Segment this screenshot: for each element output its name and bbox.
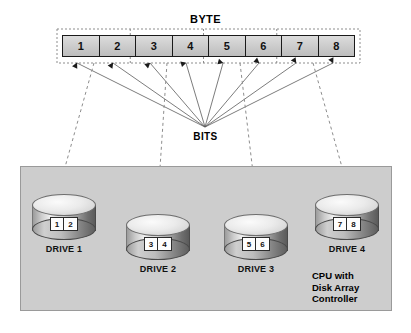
bit-fan-lines xyxy=(77,63,333,127)
byte-cell-4: 4 xyxy=(173,36,210,56)
cpu-caption-line-3: Controller xyxy=(312,293,390,305)
byte-cell-8: 8 xyxy=(319,36,355,56)
byte-cell-5: 5 xyxy=(209,36,246,56)
drive-4: 7 8 DRIVE 4 xyxy=(315,194,379,240)
byte-cell-1: 1 xyxy=(63,36,100,56)
drive-4-label: DRIVE 4 xyxy=(329,244,365,254)
drive-2-bit-b: 4 xyxy=(158,238,171,250)
drive-4-bit-a: 7 xyxy=(334,218,347,230)
drive-1-bit-b: 2 xyxy=(64,218,77,230)
cpu-caption-line-1: CPU with xyxy=(312,270,390,282)
drive-4-cylinder-icon: 7 8 xyxy=(315,194,379,240)
byte-cell-6: 6 xyxy=(246,36,283,56)
drive-1-label: DRIVE 1 xyxy=(46,244,82,254)
drive-2-bit-a: 3 xyxy=(145,238,158,250)
drive-1-bit-pair: 1 2 xyxy=(50,217,78,231)
byte-title: BYTE xyxy=(0,13,411,25)
cpu-controller-caption: CPU with Disk Array Controller xyxy=(312,270,390,305)
drive-3-label: DRIVE 3 xyxy=(238,264,274,274)
byte-cell-3: 3 xyxy=(136,36,173,56)
drive-3-bit-a: 5 xyxy=(243,238,256,250)
byte-cell-7: 7 xyxy=(282,36,319,56)
bits-label: BITS xyxy=(0,131,411,142)
drive-2: 3 4 DRIVE 2 xyxy=(126,214,190,260)
drive-2-cylinder-top xyxy=(126,214,190,236)
drive-1-cylinder-icon: 1 2 xyxy=(32,194,96,240)
drive-1-bit-a: 1 xyxy=(51,218,64,230)
byte-cell-2: 2 xyxy=(100,36,137,56)
drive-4-bit-b: 8 xyxy=(347,218,360,230)
drive-4-cylinder-top xyxy=(315,194,379,216)
drive-1-cylinder-top xyxy=(32,194,96,216)
raid-striping-diagram: BYTE 1 2 3 4 5 6 7 8 BITS 1 2 DRIVE 1 xyxy=(0,0,411,333)
drive-3-bit-pair: 5 6 xyxy=(242,237,270,251)
drive-3-cylinder-top xyxy=(224,214,288,236)
cpu-caption-line-2: Disk Array xyxy=(312,282,390,294)
drive-1: 1 2 DRIVE 1 xyxy=(32,194,96,240)
drive-2-label: DRIVE 2 xyxy=(140,264,176,274)
drive-3-cylinder-icon: 5 6 xyxy=(224,214,288,260)
drive-3: 5 6 DRIVE 3 xyxy=(224,214,288,260)
drive-2-cylinder-icon: 3 4 xyxy=(126,214,190,260)
drive-3-bit-b: 6 xyxy=(256,238,269,250)
drive-4-bit-pair: 7 8 xyxy=(333,217,361,231)
byte-strip: 1 2 3 4 5 6 7 8 xyxy=(62,35,355,57)
drive-2-bit-pair: 3 4 xyxy=(144,237,172,251)
